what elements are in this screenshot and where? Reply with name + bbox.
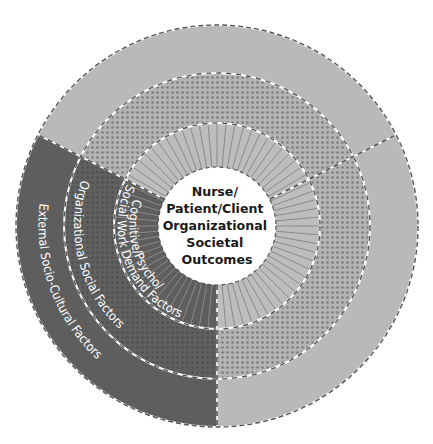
center-line-5: Outcomes	[182, 252, 253, 267]
center-line-2: Patient/Client	[166, 201, 263, 216]
concentric-diagram: Nurse/ Patient/Client Organizational Soc…	[0, 0, 433, 444]
center-line-4: Societal	[186, 235, 243, 250]
center-line-1: Nurse/	[192, 184, 239, 199]
center-line-3: Organizational	[163, 218, 267, 233]
